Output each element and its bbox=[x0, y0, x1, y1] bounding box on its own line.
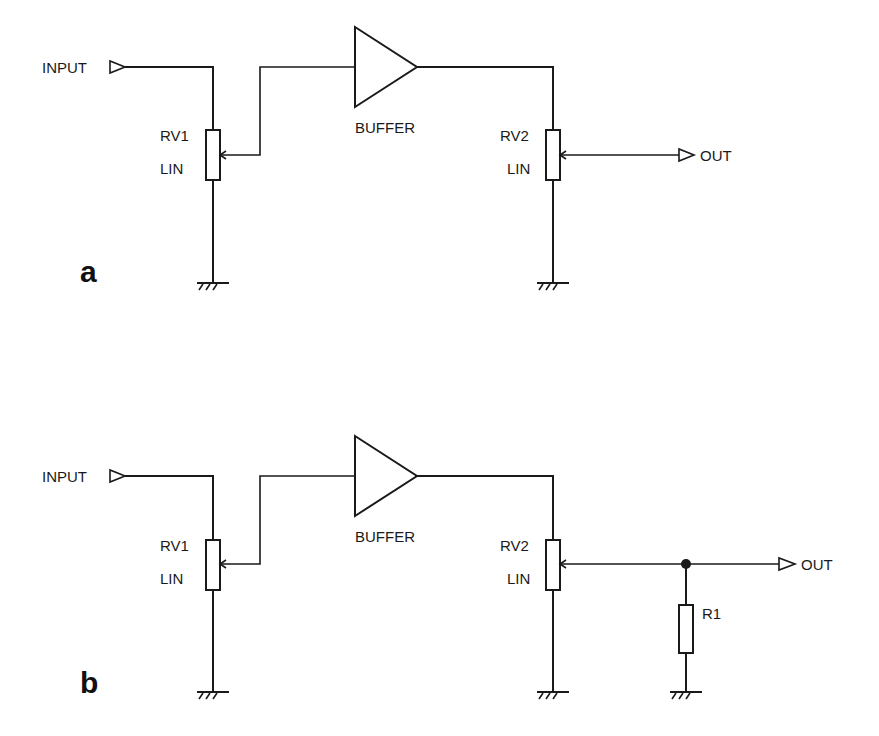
ground-icon bbox=[537, 692, 569, 699]
r1-name: R1 bbox=[702, 605, 721, 622]
rv1-wiper-wire-b bbox=[220, 476, 355, 564]
buffer-label-a: BUFFER bbox=[355, 119, 415, 136]
output-label-a: OUT bbox=[700, 147, 732, 164]
rv2-taper-a: LIN bbox=[507, 160, 530, 177]
buffer-label-b: BUFFER bbox=[355, 528, 415, 545]
buffer-amplifier-icon bbox=[355, 436, 417, 516]
output-label-b: OUT bbox=[801, 556, 833, 573]
ground-icon bbox=[197, 692, 229, 699]
rv1-potentiometer-b bbox=[206, 540, 220, 590]
ground-icon bbox=[670, 692, 702, 699]
panel-label-a: a bbox=[80, 255, 97, 288]
rv1-taper-b: LIN bbox=[160, 570, 183, 587]
diagram-a: INPUT RV1 LIN BUFFER RV2 LIN bbox=[42, 27, 732, 290]
rv1-name-a: RV1 bbox=[160, 127, 189, 144]
buffer-amplifier-icon bbox=[355, 27, 417, 107]
rv2-potentiometer-a bbox=[546, 130, 560, 180]
output-port-icon bbox=[779, 558, 795, 570]
input-port-icon bbox=[110, 61, 125, 73]
input-label-b: INPUT bbox=[42, 468, 87, 485]
rv1-potentiometer-a bbox=[206, 130, 220, 180]
rv1-name-b: RV1 bbox=[160, 537, 189, 554]
rv2-name-a: RV2 bbox=[500, 127, 529, 144]
ground-icon bbox=[197, 283, 229, 290]
rv1-taper-a: LIN bbox=[160, 160, 183, 177]
buffer-output-wire-b bbox=[417, 476, 553, 540]
diagram-b: INPUT RV1 LIN BUFFER RV2 LIN bbox=[42, 436, 833, 699]
schematic-canvas: INPUT RV1 LIN BUFFER RV2 LIN bbox=[0, 0, 879, 736]
panel-label-b: b bbox=[80, 666, 98, 699]
input-port-icon bbox=[110, 470, 125, 482]
input-wire-b bbox=[125, 476, 213, 540]
rv2-potentiometer-b bbox=[546, 540, 560, 590]
rv2-taper-b: LIN bbox=[507, 570, 530, 587]
input-label-a: INPUT bbox=[42, 59, 87, 76]
output-port-icon bbox=[679, 149, 694, 161]
r1-resistor bbox=[679, 605, 693, 653]
buffer-output-wire-a bbox=[417, 67, 553, 130]
rv2-name-b: RV2 bbox=[500, 537, 529, 554]
input-wire-a bbox=[125, 67, 213, 130]
rv1-wiper-wire-a bbox=[220, 67, 355, 155]
ground-icon bbox=[537, 283, 569, 290]
